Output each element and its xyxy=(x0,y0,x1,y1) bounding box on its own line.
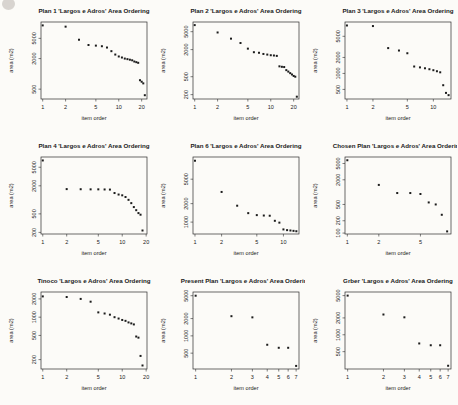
x-tick-label: 3 xyxy=(251,374,254,380)
data-point xyxy=(418,342,420,344)
data-point xyxy=(130,322,132,324)
x-axis-label: item order xyxy=(81,115,106,121)
x-tick-label: 1 xyxy=(193,239,196,245)
data-point xyxy=(435,203,437,205)
data-point xyxy=(95,45,97,47)
data-point xyxy=(140,214,142,216)
x-axis-label: item order xyxy=(385,250,410,256)
data-point xyxy=(346,24,348,26)
plot-box xyxy=(345,22,451,99)
plot-title: Tinoco 'Largos e Adros' Area Ordering xyxy=(37,277,150,284)
y-tick-label: 500 xyxy=(31,209,37,218)
y-tick-label: 5000 xyxy=(183,26,189,38)
data-point xyxy=(126,58,128,60)
data-point xyxy=(230,315,232,317)
scatter-plot-7: Tinoco 'Largos e Adros' Area Ordering125… xyxy=(1,270,153,405)
x-tick-label: 20 xyxy=(291,104,297,110)
x-tick-label: 1 xyxy=(193,104,196,110)
x-tick-label: 1 xyxy=(41,239,44,245)
x-tick-label: 20 xyxy=(143,239,149,245)
data-point xyxy=(121,194,123,196)
data-point xyxy=(114,54,116,56)
data-point xyxy=(239,42,241,44)
scatter-plot-1: Plan 1 'Largos e Adros' Area Ordering125… xyxy=(1,0,153,135)
data-point xyxy=(135,209,137,211)
data-point xyxy=(413,66,415,68)
data-point xyxy=(251,316,253,318)
x-tick-label: 4 xyxy=(266,374,269,380)
data-point xyxy=(125,320,127,322)
data-point xyxy=(66,296,68,298)
plot-box xyxy=(193,292,299,369)
data-point xyxy=(287,347,289,349)
data-point xyxy=(118,55,120,57)
data-point xyxy=(258,52,260,54)
data-point xyxy=(90,188,92,190)
data-point xyxy=(286,229,288,231)
y-axis-label: area (m2) xyxy=(8,48,14,72)
data-point xyxy=(266,344,268,346)
data-point xyxy=(42,295,44,297)
data-point xyxy=(295,365,297,367)
data-point xyxy=(144,94,146,96)
y-tick-label: 2000 xyxy=(31,180,37,192)
data-point xyxy=(419,193,421,195)
data-point xyxy=(137,212,139,214)
data-point xyxy=(282,228,284,230)
y-axis-label: area (m2) xyxy=(312,48,318,72)
data-point xyxy=(274,220,276,222)
data-point xyxy=(289,229,291,231)
data-point xyxy=(130,202,132,204)
data-point xyxy=(142,229,144,231)
y-tick-label: 2000 xyxy=(183,312,189,324)
plot-title: Plan 4 'Largos e Adros' Area Ordering xyxy=(38,142,149,149)
y-axis-label: area (m2) xyxy=(160,318,166,342)
x-tick-label: 10 xyxy=(119,239,125,245)
data-point xyxy=(278,65,280,67)
data-point xyxy=(293,230,295,232)
x-tick-label: 5 xyxy=(255,239,258,245)
data-point xyxy=(446,230,448,232)
y-tick-label: 500 xyxy=(183,349,189,358)
data-point xyxy=(80,188,82,190)
x-axis-label: item order xyxy=(81,385,106,391)
data-point xyxy=(121,57,123,59)
data-point xyxy=(269,215,271,217)
plot-title: Chosen Plan 'Largos e Adros' Area Orderi… xyxy=(333,142,457,149)
data-point xyxy=(118,194,120,196)
data-point xyxy=(398,50,400,52)
plot-box xyxy=(345,292,451,369)
data-point xyxy=(262,53,264,55)
x-tick-label: 1 xyxy=(345,104,348,110)
data-point xyxy=(266,54,268,56)
x-tick-label: 10 xyxy=(119,374,125,380)
data-point xyxy=(133,61,135,63)
y-axis-label: area (m2) xyxy=(160,48,166,72)
data-point xyxy=(104,188,106,190)
data-point xyxy=(194,24,196,26)
x-tick-label: 20 xyxy=(139,104,145,110)
data-point xyxy=(247,48,249,50)
x-tick-label: 2 xyxy=(65,239,68,245)
data-point xyxy=(281,66,283,68)
y-tick-label: 500 xyxy=(31,85,37,94)
y-tick-label: 5000 xyxy=(183,173,189,185)
y-tick-label: 1000 xyxy=(335,67,341,79)
data-point xyxy=(283,66,285,68)
x-axis-label: item order xyxy=(385,115,410,121)
y-tick-label: 200 xyxy=(31,355,37,364)
plots-grid: Plan 1 'Largos e Adros' Area Ordering125… xyxy=(1,0,457,405)
y-tick-label: 100 xyxy=(335,228,341,237)
plot-panel-5: Plan 6 'Largos e Adros' Area Ordering125… xyxy=(153,135,305,270)
data-point xyxy=(256,214,258,216)
data-point xyxy=(287,71,289,73)
y-tick-label: 500 xyxy=(335,200,341,209)
data-point xyxy=(97,311,99,313)
data-point xyxy=(135,61,137,63)
plot-title: Plan 6 'Largos e Adros' Area Ordering xyxy=(190,142,301,149)
data-point xyxy=(289,72,291,74)
x-axis-label: item order xyxy=(233,385,258,391)
scatter-plot-5: Plan 6 'Largos e Adros' Area Ordering125… xyxy=(153,135,305,270)
data-point xyxy=(347,295,349,297)
x-tick-label: 2 xyxy=(230,374,233,380)
